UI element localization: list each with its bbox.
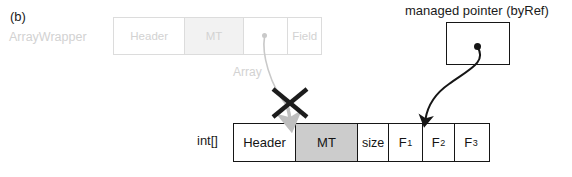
int-array-cell-f1-text: F — [399, 135, 407, 150]
arraywrapper-cell-mt: MT — [185, 18, 243, 54]
arraywrapper-cell-header: Header — [114, 18, 185, 54]
int-array-cell-f3-subscript: 3 — [472, 138, 478, 148]
int-array-cell-f1: F1 — [389, 124, 423, 161]
stale-array-reference-arrowhead — [284, 98, 290, 119]
int-array-object-box: Header MT size F1 F2 F3 — [233, 123, 490, 162]
invalidated-reference-cross-icon — [273, 89, 307, 117]
array-field-annotation-label: Array — [233, 66, 262, 78]
arraywrapper-cell-field: Field — [288, 18, 321, 54]
int-array-cell-size-text: size — [362, 136, 384, 150]
managed-pointer-label: managed pointer (byRef) — [405, 4, 549, 17]
int-array-type-label: int[] — [197, 134, 218, 147]
int-array-cell-f3-text: F — [464, 135, 472, 150]
arraywrapper-type-label: ArrayWrapper — [9, 31, 87, 44]
arraywrapper-array-pointer-dot — [262, 33, 267, 38]
int-array-cell-f3: F3 — [455, 124, 487, 161]
figure-panel-b: (b) ArrayWrapper Header MT Field Array m… — [0, 0, 572, 177]
int-array-cell-f1-subscript: 1 — [407, 138, 413, 148]
arraywrapper-object-box: Header MT Field — [113, 17, 322, 55]
int-array-cell-header: Header — [234, 124, 296, 161]
managed-pointer-dot — [474, 43, 481, 50]
int-array-cell-f2: F2 — [423, 124, 455, 161]
int-array-cell-mt: MT — [296, 124, 358, 161]
int-array-cell-header-text: Header — [243, 135, 286, 150]
panel-label: (b) — [10, 10, 26, 23]
int-array-cell-mt-text: MT — [317, 135, 336, 150]
int-array-cell-size: size — [358, 124, 389, 161]
int-array-cell-f2-subscript: 2 — [440, 138, 446, 148]
int-array-cell-f2-text: F — [432, 135, 440, 150]
